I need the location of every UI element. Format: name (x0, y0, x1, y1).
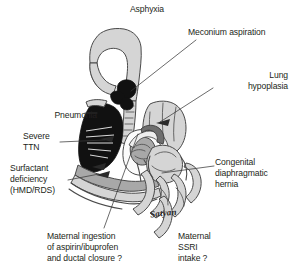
label-congenital-diaphragmatic-hernia: Congenital diaphragmatic hernia (215, 157, 291, 191)
label-maternal-ingestion: Maternal ingestion of aspirin/ibuprofen … (47, 231, 171, 265)
label-pneumonia: Pneumonia (33, 110, 97, 121)
label-maternal-ssri-intake: Maternal SSRI intake ? (178, 231, 238, 265)
label-meconium-aspiration: Meconium aspiration (188, 27, 292, 38)
meconium-plug (111, 80, 137, 110)
label-lung-hypoplasia: Lung hypoplasia (198, 70, 288, 92)
label-asphyxia: Asphyxia (104, 4, 190, 15)
label-severe-ttn: Severe TTN (23, 131, 75, 153)
label-surfactant-deficiency: Surfactant deficiency (HMD/RDS) (10, 163, 84, 197)
neonatal-respiratory-distress-figure: .out { fill: none; stroke: #4a4a4a; stro… (0, 0, 292, 274)
